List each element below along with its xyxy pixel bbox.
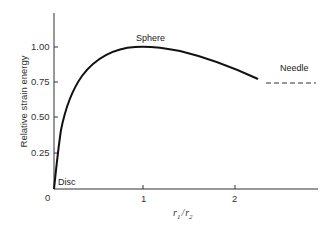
y-ticks (54, 47, 58, 153)
annotation-needle: Needle (280, 63, 309, 73)
y-tick-1-00: 1.00 (31, 41, 50, 52)
y-tick-0-25: 0.25 (31, 147, 50, 158)
x-axis-label: r1/r2 (173, 207, 193, 221)
y-tick-0-75: 0.75 (31, 76, 50, 87)
y-axis-label: Relative strain energy (18, 47, 29, 157)
strain-energy-curve (54, 47, 258, 189)
y-tick-0-50: 0.50 (31, 111, 50, 122)
x-label-sub2: 2 (189, 213, 193, 221)
x-label-sub1: 1 (177, 213, 181, 221)
x-tick-1: 1 (141, 193, 146, 204)
x-label-slash: / (181, 207, 184, 218)
annotation-sphere: Sphere (136, 33, 165, 43)
x-ticks (143, 185, 235, 189)
origin-label: 0 (45, 192, 50, 203)
annotation-disc: Disc (58, 177, 76, 187)
x-tick-2: 2 (232, 193, 237, 204)
